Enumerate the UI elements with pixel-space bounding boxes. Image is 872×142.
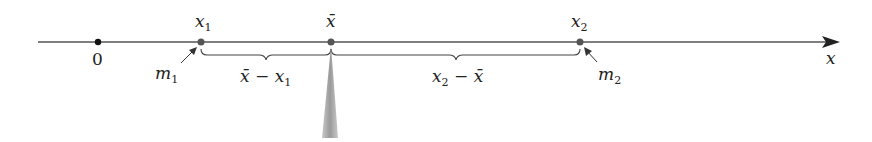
x2-dot: [577, 39, 584, 46]
x2-label: x2: [571, 11, 588, 34]
fulcrum-icon: [322, 46, 338, 138]
m1-label: m1: [155, 63, 178, 86]
brace-right-label: x2 − x̄: [432, 66, 484, 89]
xbar-label: x̄: [326, 11, 336, 31]
x1-label: x1: [195, 11, 212, 34]
brace-left-label: x̄ − x1: [240, 66, 291, 89]
xbar-dot: [328, 39, 335, 46]
origin-dot: [95, 39, 101, 45]
m2-label: m2: [598, 64, 621, 87]
brace-right: [331, 49, 580, 60]
center-of-mass-diagram: x 0 x1 m1 x̄ x2 m2 x̄ − x1 x2 − x̄: [0, 0, 872, 142]
origin-label: 0: [92, 49, 103, 69]
x-axis-label: x: [826, 48, 836, 68]
brace-left: [201, 49, 331, 60]
x1-dot: [198, 39, 205, 46]
